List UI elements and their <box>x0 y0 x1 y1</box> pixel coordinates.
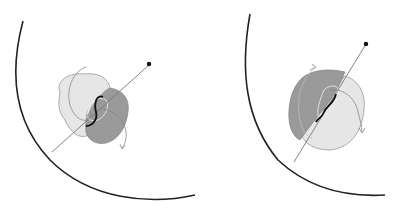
arrowhead-icon <box>310 64 316 70</box>
panel-right <box>245 14 385 195</box>
pointer-dot <box>364 42 368 46</box>
pointer-dot <box>147 62 151 66</box>
panel-left <box>16 21 195 199</box>
figure-canvas <box>0 0 400 213</box>
